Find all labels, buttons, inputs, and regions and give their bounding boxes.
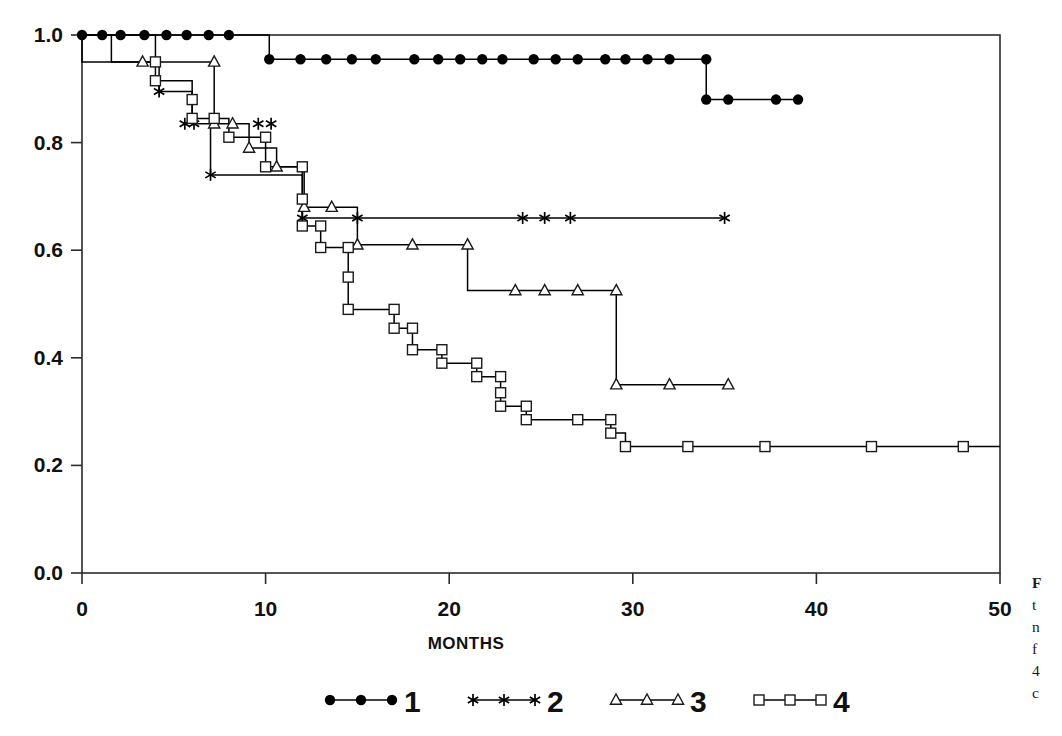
legend-entry-1[interactable]: 1 xyxy=(325,685,421,718)
data-point-marker xyxy=(723,379,734,389)
x-axis-title: MONTHS xyxy=(428,634,505,653)
x-tick-label: 40 xyxy=(805,597,828,620)
data-point-marker xyxy=(187,95,197,105)
data-point-marker xyxy=(389,304,399,314)
caption-line: c xyxy=(1032,682,1062,702)
data-point-marker xyxy=(161,30,171,40)
x-tick-label: 10 xyxy=(254,597,277,620)
caption-line: t xyxy=(1032,594,1062,616)
data-point-marker xyxy=(407,323,417,333)
data-point-marker xyxy=(356,695,366,705)
tick-labels: 010203040500.00.20.40.60.81.0 xyxy=(34,23,1012,620)
data-point-marker xyxy=(611,379,622,389)
data-point-marker xyxy=(150,76,160,86)
data-point-marker xyxy=(642,54,652,64)
data-point-marker xyxy=(224,30,234,40)
y-tick-label: 0.2 xyxy=(34,453,63,476)
data-point-marker xyxy=(672,694,683,704)
legend-label-1: 1 xyxy=(404,685,421,718)
data-point-marker xyxy=(528,54,538,64)
data-point-marker xyxy=(407,345,417,355)
data-point-marker xyxy=(243,142,254,152)
x-tick-label: 50 xyxy=(988,597,1011,620)
data-point-marker xyxy=(407,239,418,249)
data-point-marker xyxy=(701,94,711,104)
caption-line: F xyxy=(1032,572,1062,594)
data-point-marker xyxy=(203,30,213,40)
markers-series-3 xyxy=(137,56,734,389)
x-tick-label: 0 xyxy=(76,597,88,620)
y-tick-label: 0.6 xyxy=(34,238,63,261)
data-point-marker xyxy=(760,442,770,452)
legend: 1234 xyxy=(325,685,850,718)
survival-curve-3 xyxy=(82,35,728,385)
y-tick-label: 0.8 xyxy=(34,131,64,154)
data-point-marker xyxy=(297,162,307,172)
x-tick-label: 30 xyxy=(621,597,644,620)
data-point-marker xyxy=(573,415,583,425)
data-point-marker xyxy=(683,442,693,452)
data-point-marker xyxy=(325,695,335,705)
legend-label-4: 4 xyxy=(833,685,850,718)
curve-markers xyxy=(77,30,968,452)
legend-entry-4[interactable]: 4 xyxy=(754,685,850,718)
caption-line: n xyxy=(1032,616,1062,638)
data-point-marker xyxy=(472,358,482,368)
data-point-marker xyxy=(271,161,282,171)
legend-entry-3[interactable]: 3 xyxy=(610,685,706,718)
data-point-marker xyxy=(539,285,550,295)
data-point-marker xyxy=(462,239,473,249)
data-point-marker xyxy=(150,57,160,67)
data-point-marker xyxy=(510,285,521,295)
data-point-marker xyxy=(793,94,803,104)
data-point-marker xyxy=(137,56,148,66)
data-point-marker xyxy=(316,243,326,253)
legend-label-2: 2 xyxy=(547,685,564,718)
data-point-marker xyxy=(754,695,764,705)
data-point-marker xyxy=(181,30,191,40)
data-point-marker xyxy=(343,243,353,253)
data-point-marker xyxy=(115,30,125,40)
data-point-marker xyxy=(343,272,353,282)
data-point-marker xyxy=(297,221,307,231)
data-point-marker xyxy=(316,221,326,231)
data-point-marker xyxy=(77,30,87,40)
data-point-marker xyxy=(785,695,795,705)
figure-container: 010203040500.00.20.40.60.81.0 MONTHS 123… xyxy=(0,0,1062,736)
y-tick-label: 0.4 xyxy=(34,346,64,369)
data-point-marker xyxy=(261,162,271,172)
data-point-marker xyxy=(264,54,274,64)
markers-series-1 xyxy=(77,30,803,105)
legend-entry-2[interactable]: 2 xyxy=(468,685,564,718)
data-point-marker xyxy=(816,695,826,705)
data-point-marker xyxy=(321,54,331,64)
data-point-marker xyxy=(477,54,487,64)
data-point-marker xyxy=(387,695,397,705)
data-point-marker xyxy=(409,54,419,64)
data-point-marker xyxy=(771,94,781,104)
data-point-marker xyxy=(958,442,968,452)
data-point-marker xyxy=(723,94,733,104)
data-point-marker xyxy=(497,54,507,64)
data-point-marker xyxy=(496,372,506,382)
caption-line: f xyxy=(1032,638,1062,660)
data-point-marker xyxy=(209,56,220,66)
data-point-marker xyxy=(620,54,630,64)
data-point-marker xyxy=(437,358,447,368)
data-point-marker xyxy=(455,54,465,64)
data-point-marker xyxy=(261,132,271,142)
data-point-marker xyxy=(343,304,353,314)
data-point-marker xyxy=(606,428,616,438)
survival-plot: 010203040500.00.20.40.60.81.0 MONTHS 123… xyxy=(0,0,1062,736)
y-tick-label: 1.0 xyxy=(34,23,63,46)
data-point-marker xyxy=(600,54,610,64)
data-point-marker xyxy=(297,194,307,204)
data-point-marker xyxy=(521,401,531,411)
data-point-marker xyxy=(620,442,630,452)
data-point-marker xyxy=(641,694,652,704)
markers-series-2 xyxy=(154,85,730,223)
data-point-marker xyxy=(572,285,583,295)
x-tick-label: 20 xyxy=(438,597,461,620)
data-point-marker xyxy=(496,388,506,398)
survival-curve-1 xyxy=(82,35,798,100)
